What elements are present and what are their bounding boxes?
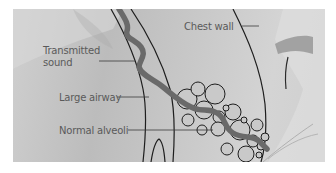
lung-sound-illustration: Transmitted sound Chest wall Large airwa… [13, 9, 325, 162]
label-transmitted-sound-line1: Transmitted [43, 45, 100, 56]
label-transmitted-sound-line2: sound [43, 57, 72, 68]
hand-shading [268, 9, 325, 162]
bronchus-split [151, 139, 165, 162]
airway-right-wall [131, 9, 174, 162]
diagram-overlay [13, 9, 325, 162]
label-normal-alveoli: Normal alveoli [59, 125, 128, 136]
label-large-airway: Large airway [59, 92, 121, 103]
label-chest-wall: Chest wall [184, 21, 234, 32]
